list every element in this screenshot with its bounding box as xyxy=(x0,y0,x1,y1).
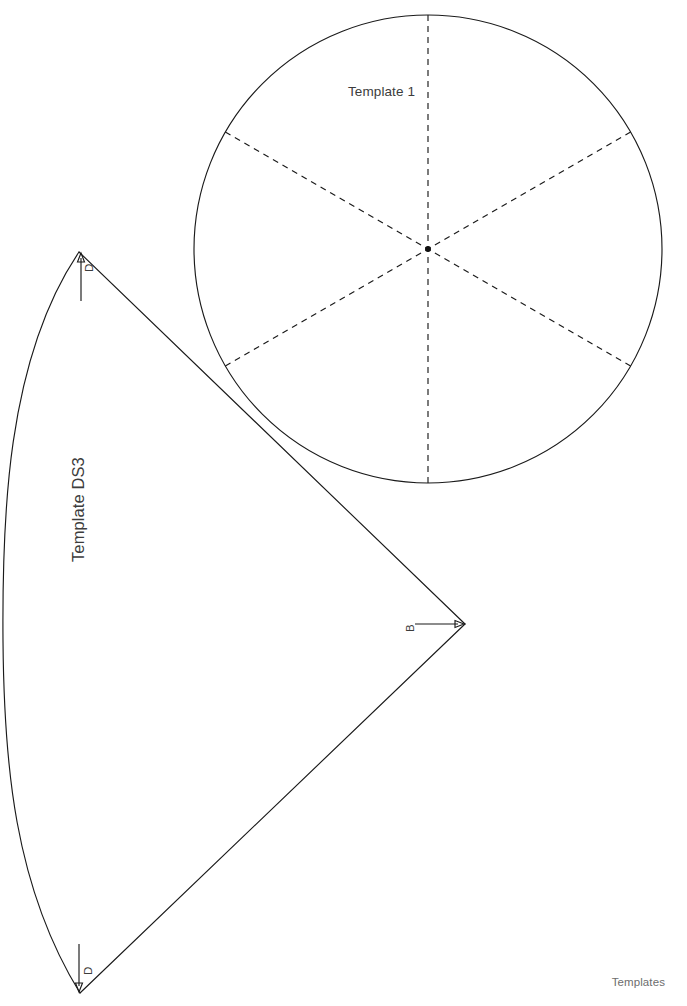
sector-outer-arc xyxy=(3,252,80,993)
annotation-leaders xyxy=(76,253,465,992)
sector-lower-radius xyxy=(80,624,465,993)
sector-template-label: Template DS3 xyxy=(70,442,87,562)
template-drawing-canvas xyxy=(0,0,687,1006)
page-footer-label: Templates xyxy=(612,977,665,989)
circle-template-label: Template 1 xyxy=(348,85,415,99)
sector-template-ds3 xyxy=(3,252,465,993)
sector-upper-radius xyxy=(79,252,465,624)
circle-center-dot xyxy=(425,246,431,252)
annotation-label-d-bottom: D xyxy=(83,967,95,975)
circle-template-1 xyxy=(194,15,662,483)
template-sheet: Template 1 Template DS3 D B D Templates xyxy=(0,0,687,1006)
annotation-label-d-top: D xyxy=(84,264,96,272)
annotation-label-b: B xyxy=(405,624,417,632)
